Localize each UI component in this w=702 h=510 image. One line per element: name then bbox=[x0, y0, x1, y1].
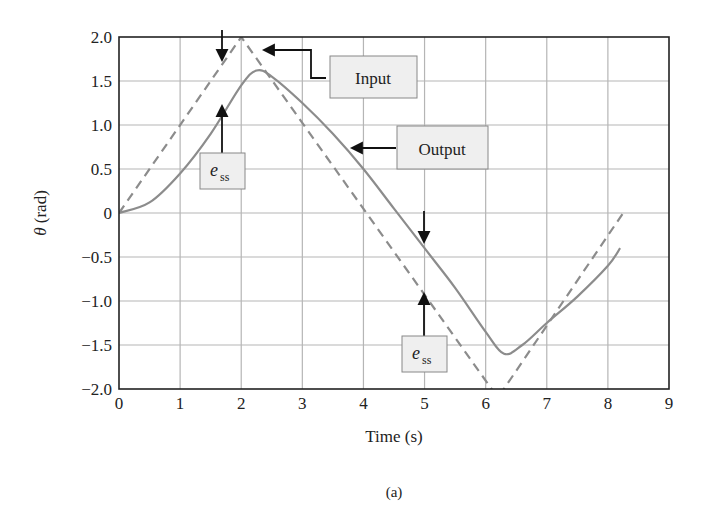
svg-text:Input: Input bbox=[355, 69, 391, 88]
svg-text:ss: ss bbox=[422, 353, 432, 367]
x-tick-label: 1 bbox=[176, 394, 185, 413]
y-tick-label: 1.0 bbox=[91, 116, 112, 135]
y-tick-label: −0.5 bbox=[81, 248, 112, 267]
annotation-output: Output bbox=[397, 126, 488, 169]
x-tick-label: 0 bbox=[115, 394, 124, 413]
x-tick-label: 9 bbox=[665, 394, 674, 413]
x-tick-label: 6 bbox=[481, 394, 490, 413]
series-output-line bbox=[119, 70, 620, 354]
y-tick-label: 0.5 bbox=[91, 160, 112, 179]
x-tick-label: 8 bbox=[604, 394, 613, 413]
svg-text:Output: Output bbox=[418, 140, 466, 159]
y-tick-label: 2.0 bbox=[91, 28, 112, 47]
svg-text:ss: ss bbox=[220, 170, 230, 184]
svg-text:e: e bbox=[210, 160, 218, 180]
chart: 01234567892.01.51.00.50−0.5−1.0−1.5−2.0 … bbox=[0, 0, 702, 510]
annotation-ess-1: e ss bbox=[200, 153, 245, 189]
y-tick-label: −1.0 bbox=[81, 292, 112, 311]
annotation-input: Input bbox=[330, 56, 417, 98]
y-tick-label: −1.5 bbox=[81, 336, 112, 355]
x-tick-label: 7 bbox=[543, 394, 552, 413]
y-axis-label: θ (rad) bbox=[31, 190, 50, 236]
y-tick-label: 0 bbox=[104, 204, 113, 223]
figure-caption: (a) bbox=[386, 484, 403, 501]
x-axis-label: Time (s) bbox=[365, 427, 422, 446]
svg-text:e: e bbox=[412, 343, 420, 363]
x-tick-label: 2 bbox=[237, 394, 246, 413]
x-tick-label: 5 bbox=[420, 394, 429, 413]
x-tick-label: 3 bbox=[298, 394, 307, 413]
y-tick-label: 1.5 bbox=[91, 72, 112, 91]
x-tick-label: 4 bbox=[359, 394, 368, 413]
annotation-ess-2: e ss bbox=[402, 336, 447, 372]
y-tick-label: −2.0 bbox=[81, 380, 112, 399]
